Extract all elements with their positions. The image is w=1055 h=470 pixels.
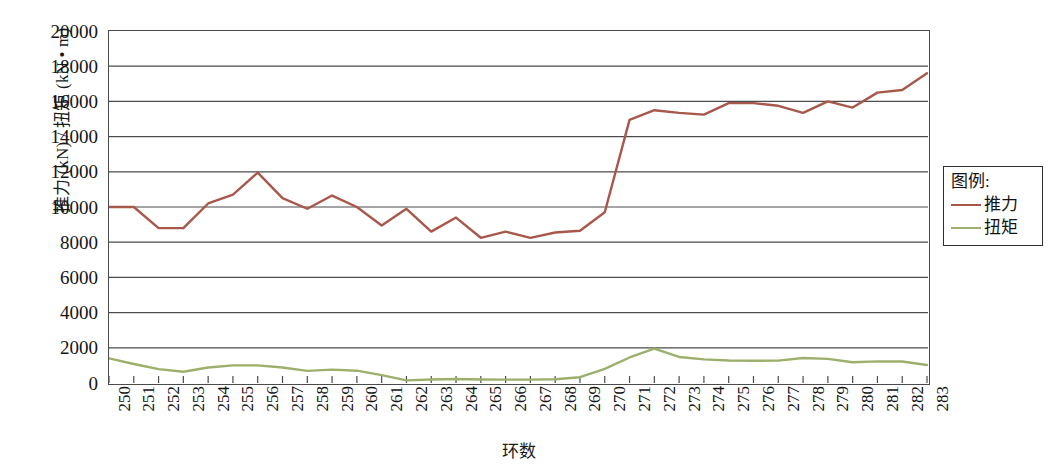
legend-entry[interactable]: 扭矩 bbox=[951, 216, 1036, 239]
y-tick-label: 6000 bbox=[60, 268, 98, 287]
x-tick-label: 257 bbox=[289, 386, 306, 412]
x-tick-label: 272 bbox=[661, 386, 678, 412]
legend-title: 图例: bbox=[951, 171, 1036, 193]
x-tick-label: 256 bbox=[264, 386, 281, 412]
y-tick-label: 20000 bbox=[51, 22, 99, 41]
x-tick-label: 258 bbox=[314, 386, 331, 412]
x-tick-label: 277 bbox=[785, 386, 802, 412]
x-tick-label: 269 bbox=[586, 386, 603, 412]
series-lines bbox=[109, 73, 927, 380]
y-tick-label: 14000 bbox=[51, 127, 99, 146]
x-tick-label: 278 bbox=[810, 386, 827, 412]
plot-area bbox=[108, 30, 930, 385]
x-tick-label: 281 bbox=[884, 386, 901, 412]
x-tick-label: 250 bbox=[116, 386, 133, 412]
y-tick-label: 2000 bbox=[60, 338, 98, 357]
gridlines bbox=[109, 66, 928, 348]
series-line bbox=[109, 73, 927, 238]
y-tick-label: 18000 bbox=[51, 57, 99, 76]
x-tick-label: 251 bbox=[140, 386, 157, 412]
y-tick-label: 0 bbox=[89, 374, 99, 393]
x-tick-label: 275 bbox=[735, 386, 752, 412]
y-tick-label: 10000 bbox=[51, 198, 99, 217]
x-tick-label: 262 bbox=[413, 386, 430, 412]
x-tick-label: 266 bbox=[512, 386, 529, 412]
legend-color-swatch bbox=[951, 204, 981, 206]
series-line bbox=[109, 349, 927, 381]
y-tick-label: 16000 bbox=[51, 92, 99, 111]
x-tick-label: 271 bbox=[636, 386, 653, 412]
x-tick-label: 283 bbox=[934, 386, 951, 412]
x-tick-label: 254 bbox=[215, 386, 232, 412]
x-tick-label: 264 bbox=[463, 386, 480, 412]
x-tick-label: 280 bbox=[859, 386, 876, 412]
x-tick-label: 273 bbox=[686, 386, 703, 412]
x-tick-label: 270 bbox=[611, 386, 628, 412]
legend-entry-label: 推力 bbox=[984, 196, 1018, 213]
y-axis-tick-labels: 0200040006000800010000120001400016000180… bbox=[0, 0, 104, 470]
x-tick-label: 276 bbox=[760, 386, 777, 412]
plot-svg bbox=[109, 31, 928, 383]
x-tick-label: 260 bbox=[363, 386, 380, 412]
legend-color-swatch bbox=[951, 227, 981, 229]
x-tick-label: 252 bbox=[165, 386, 182, 412]
legend-box: 图例: 推力扭矩 bbox=[943, 166, 1043, 246]
x-tick-label: 279 bbox=[834, 386, 851, 412]
x-tick-label: 255 bbox=[239, 386, 256, 412]
chart-container: 推力 (kN) / 扭矩 (kN • m) 020004000600080001… bbox=[0, 0, 1055, 470]
x-tick-label: 268 bbox=[562, 386, 579, 412]
x-tick-label: 282 bbox=[909, 386, 926, 412]
x-tick-label: 259 bbox=[339, 386, 356, 412]
legend-entry[interactable]: 推力 bbox=[951, 193, 1036, 216]
x-tick-label: 253 bbox=[190, 386, 207, 412]
x-tick-label: 261 bbox=[388, 386, 405, 412]
x-tick-label: 263 bbox=[438, 386, 455, 412]
legend-entries: 推力扭矩 bbox=[951, 193, 1036, 239]
x-tick-label: 265 bbox=[487, 386, 504, 412]
x-axis-title: 环数 bbox=[108, 437, 930, 462]
x-axis-tick-labels: 2502512522532542552562572582592602612622… bbox=[108, 386, 930, 444]
y-tick-label: 8000 bbox=[60, 233, 98, 252]
x-tick-label: 267 bbox=[537, 386, 554, 412]
legend-entry-label: 扭矩 bbox=[984, 219, 1018, 236]
x-tick-label: 274 bbox=[710, 386, 727, 412]
y-tick-label: 12000 bbox=[51, 162, 99, 181]
y-tick-label: 4000 bbox=[60, 303, 98, 322]
